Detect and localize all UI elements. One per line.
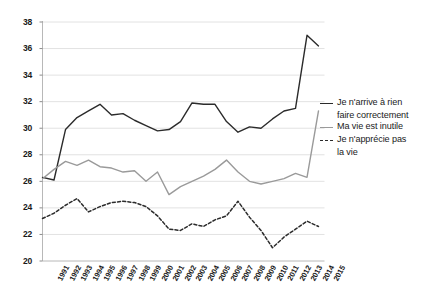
legend-item-2[interactable]: Je n'apprécie pas (320, 134, 436, 146)
y-axis-tick-label: 30 (8, 123, 32, 133)
dashed-line-icon (320, 135, 334, 146)
y-axis-tick-label: 22 (8, 229, 32, 239)
y-axis-tick-label: 24 (8, 202, 32, 212)
legend-item-1[interactable]: Ma vie est inutile (320, 121, 436, 133)
gridlines (43, 22, 325, 234)
legend-item-label-continued: faire correctement (337, 110, 436, 121)
legend-item-label: Je n'arrive à rien (337, 97, 402, 108)
solid-grey-line-icon (320, 122, 334, 133)
y-axis-tick-label: 28 (8, 149, 32, 159)
y-axis-tick-label: 34 (8, 70, 32, 80)
series-line-0 (43, 35, 319, 180)
data-series-layer (43, 35, 319, 247)
legend-item-label-continued: la vie (337, 147, 436, 158)
y-axis-tick-label: 36 (8, 43, 32, 53)
series-line-1 (43, 111, 319, 195)
axis-lines (40, 21, 325, 261)
legend-item-label: Je n'apprécie pas (337, 134, 406, 145)
series-line-2 (43, 199, 319, 248)
legend-item-0[interactable]: Je n'arrive à rien (320, 97, 436, 109)
y-axis-tick-label: 26 (8, 176, 32, 186)
line-chart: 20222426283032343638 1991199219931994199… (0, 0, 436, 305)
y-axis-tick-label: 32 (8, 96, 32, 106)
axis-line (43, 21, 325, 261)
y-axis-tick-label: 20 (8, 256, 32, 266)
legend-item-label: Ma vie est inutile (337, 121, 403, 132)
y-axis-tick-label: 38 (8, 17, 32, 27)
solid-dark-line-icon (320, 98, 334, 109)
chart-legend: Je n'arrive à rienfaire correctementMa v… (320, 97, 436, 159)
